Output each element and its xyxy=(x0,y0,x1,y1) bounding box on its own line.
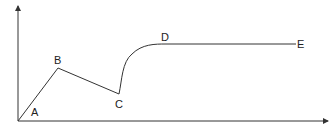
label-c: C xyxy=(115,98,123,110)
label-e: E xyxy=(297,38,304,50)
label-b: B xyxy=(54,54,61,66)
diagram-canvas: A B C D E xyxy=(0,0,331,126)
label-d: D xyxy=(161,31,169,43)
label-a: A xyxy=(31,106,39,118)
